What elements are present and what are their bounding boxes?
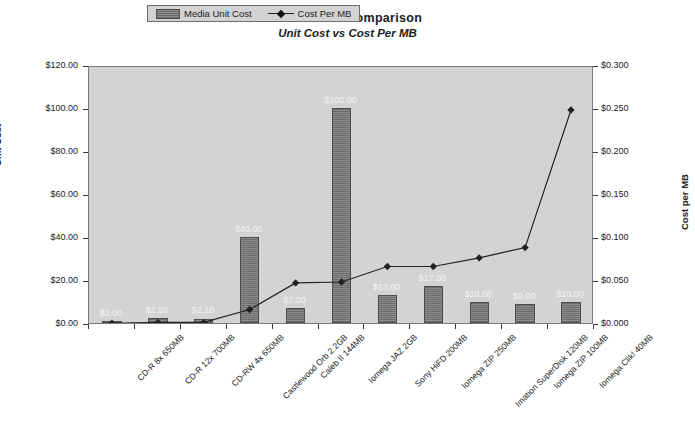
legend-item-cost-per-mb: Cost Per MB — [268, 8, 352, 19]
line-marker — [200, 319, 207, 323]
plot-inner — [89, 67, 592, 323]
y-axis-right-tick-mark — [593, 238, 598, 239]
line-marker — [521, 244, 528, 251]
bar-data-label: $1.00 — [100, 308, 123, 318]
line-series-layer — [89, 67, 592, 323]
legend-bar-swatch-icon — [156, 9, 180, 19]
x-axis-tick-mark — [363, 324, 364, 329]
x-axis-label: Iomega ZIP 250MB — [460, 332, 519, 391]
bar-data-label: $9.00 — [513, 291, 536, 301]
x-axis-tick-mark — [547, 324, 548, 329]
bar-data-label: $13.00 — [373, 282, 401, 292]
bar-data-label: $10.00 — [464, 289, 492, 299]
y-axis-right-tick-label: $0.250 — [601, 103, 659, 113]
y-axis-right-tick-label: $0.000 — [601, 318, 659, 328]
chart-container: Media Cost Comparison Unit Cost vs Cost … — [0, 0, 695, 446]
y-axis-left-tick-label: $0.00 — [20, 318, 78, 328]
line-marker — [292, 279, 299, 286]
y-axis-right-tick-label: $0.200 — [601, 146, 659, 156]
y-axis-right-tick-mark — [593, 152, 598, 153]
x-axis-tick-mark — [501, 324, 502, 329]
x-axis-tick-mark — [226, 324, 227, 329]
legend-item-media-unit-cost: Media Unit Cost — [156, 8, 252, 19]
line-marker — [108, 320, 115, 323]
line-marker — [476, 254, 483, 261]
y-axis-left-tick-label: $120.00 — [20, 60, 78, 70]
chart-subtitle: Unit Cost vs Cost Per MB — [0, 26, 695, 41]
line-marker — [154, 319, 161, 323]
bar-data-label: $7.00 — [283, 295, 306, 305]
chart-legend: Media Unit Cost Cost Per MB — [147, 5, 360, 22]
x-axis-tick-mark — [180, 324, 181, 329]
x-axis-tick-mark — [318, 324, 319, 329]
x-axis-tick-mark — [455, 324, 456, 329]
x-axis-label: CD-R 8x 650MB — [135, 332, 186, 383]
y-axis-left-tick-label: $40.00 — [20, 232, 78, 242]
line-marker — [246, 306, 253, 313]
line-path — [112, 110, 571, 323]
legend-line-marker-icon — [268, 10, 294, 18]
bar-data-label: $40.00 — [235, 224, 263, 234]
bar-data-label: $17.00 — [419, 273, 447, 283]
x-axis-tick-mark — [409, 324, 410, 329]
legend-label-cost-per-mb: Cost Per MB — [298, 8, 352, 19]
x-axis-label: CD-RW 4x 650MB — [229, 332, 285, 388]
y-axis-left-tick-label: $80.00 — [20, 146, 78, 156]
x-axis-tick-mark — [88, 324, 89, 329]
x-axis-tick-mark — [134, 324, 135, 329]
x-axis-label: Iomega JAZ 2GB — [366, 332, 419, 385]
y-axis-right-tick-mark — [593, 281, 598, 282]
y-axis-right-tick-mark — [593, 195, 598, 196]
line-marker — [338, 278, 345, 285]
y-axis-right-tick-mark — [593, 66, 598, 67]
y-axis-left-tick-label: $60.00 — [20, 189, 78, 199]
y-axis-right-tick-label: $0.300 — [601, 60, 659, 70]
legend-label-media-unit-cost: Media Unit Cost — [184, 8, 252, 19]
y-axis-right-tick-label: $0.050 — [601, 275, 659, 285]
x-axis-tick-mark — [593, 324, 594, 329]
line-marker — [567, 106, 574, 113]
y-axis-right-title: Cost per MB — [679, 174, 690, 230]
bar-data-label: $2.10 — [192, 305, 215, 315]
line-marker — [384, 263, 391, 270]
x-axis-label: CD-R 12x 700MB — [182, 332, 236, 386]
bar-data-label: $10.00 — [556, 289, 584, 299]
y-axis-right-tick-label: $0.150 — [601, 189, 659, 199]
x-axis-tick-mark — [272, 324, 273, 329]
y-axis-left-tick-label: $20.00 — [20, 275, 78, 285]
bar-data-label: $100.00 — [324, 95, 357, 105]
line-marker — [430, 263, 437, 270]
y-axis-left-tick-label: $100.00 — [20, 103, 78, 113]
y-axis-left-title: Unit Cost — [0, 124, 3, 166]
y-axis-right-tick-label: $0.100 — [601, 232, 659, 242]
y-axis-right-tick-mark — [593, 109, 598, 110]
bar-data-label: $2.20 — [146, 305, 169, 315]
